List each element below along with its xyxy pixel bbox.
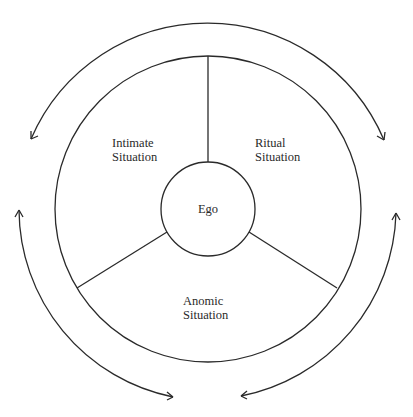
ritual-situation-label: Ritual Situation <box>255 136 300 164</box>
left-arc-arrow <box>15 210 173 400</box>
intimate-line2: Situation <box>112 150 157 164</box>
right-arc-arrow <box>241 213 400 399</box>
anomic-line2: Situation <box>183 308 228 322</box>
ego-text: Ego <box>188 202 228 216</box>
ritual-line1: Ritual <box>255 136 300 150</box>
anomic-line1: Anomic <box>183 294 228 308</box>
ego-label: Ego <box>188 202 228 216</box>
ritual-line2: Situation <box>255 150 300 164</box>
intimate-line1: Intimate <box>112 136 157 150</box>
anomic-situation-label: Anomic Situation <box>183 294 228 322</box>
spoke-lower-left <box>77 232 167 288</box>
intimate-situation-label: Intimate Situation <box>112 136 157 164</box>
spoke-lower-right <box>249 232 337 288</box>
